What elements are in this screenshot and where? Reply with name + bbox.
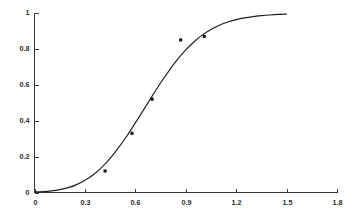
x-axis xyxy=(35,189,338,193)
x-tick-label: 0.6 xyxy=(131,198,141,207)
y-tick-label: 1 xyxy=(26,8,30,17)
sigmoid-fit-chart: 00.30.60.91.21.51.8 00.20.40.60.81 xyxy=(0,0,358,222)
data-point xyxy=(104,169,107,172)
y-axis-tick-labels: 00.20.40.60.81 xyxy=(20,8,30,197)
chart-container: 00.30.60.91.21.51.8 00.20.40.60.81 xyxy=(0,0,358,222)
data-point xyxy=(130,132,133,135)
data-point xyxy=(151,98,154,101)
fitted-sigmoid-curve xyxy=(35,14,287,192)
fitted-curve-layer xyxy=(35,14,287,192)
y-tick-label: 0.2 xyxy=(20,152,30,161)
y-tick-label: 0.4 xyxy=(20,116,30,125)
y-tick-label: 0.8 xyxy=(20,44,30,53)
x-tick-label: 0 xyxy=(34,198,38,207)
x-axis-tick-marks xyxy=(36,189,338,193)
x-tick-label: 1.8 xyxy=(333,198,343,207)
y-tick-label: 0 xyxy=(26,188,30,197)
x-tick-label: 0.9 xyxy=(182,198,192,207)
y-axis xyxy=(35,13,39,194)
data-point xyxy=(179,38,182,41)
x-axis-tick-labels: 00.30.60.91.21.51.8 xyxy=(34,198,343,207)
data-point xyxy=(203,35,206,38)
y-tick-label: 0.6 xyxy=(20,80,30,89)
x-tick-label: 1.5 xyxy=(283,198,293,207)
x-tick-label: 1.2 xyxy=(232,198,242,207)
x-tick-label: 0.3 xyxy=(81,198,91,207)
y-axis-tick-marks xyxy=(35,14,39,194)
data-points-layer xyxy=(104,35,206,173)
